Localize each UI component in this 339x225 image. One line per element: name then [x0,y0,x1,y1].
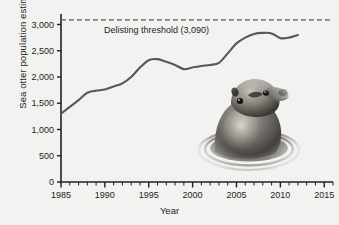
x-tick-group: 1985199019952000200520102015 [51,182,334,200]
y-tick-label: 500 [39,151,54,161]
y-tick-label: 2,500 [31,46,54,56]
x-tick-label: 1990 [95,190,115,200]
delisting-threshold-label: Delisting threshold (3,090) [104,25,209,35]
y-tick-label: 2,000 [31,72,54,82]
sea-otter-population-chart: Sea otter population estimate Year 05001… [0,0,339,225]
y-tick-label: 1,000 [31,125,54,135]
y-tick-label: 1,500 [31,98,54,108]
population-line [61,33,298,114]
x-tick-label: 2010 [270,190,290,200]
x-tick-label: 1995 [139,190,159,200]
x-tick-label: 2000 [183,190,203,200]
x-tick-label: 2005 [226,190,246,200]
plot-canvas: 05001,0001,5002,0002,5003,000 1985199019… [0,0,339,225]
y-tick-group: 05001,0001,5002,0002,5003,000 [31,20,61,188]
y-tick-label: 0 [49,177,54,187]
x-tick-label: 2015 [314,190,334,200]
y-tick-label: 3,000 [31,20,54,30]
x-tick-label: 1985 [51,190,71,200]
